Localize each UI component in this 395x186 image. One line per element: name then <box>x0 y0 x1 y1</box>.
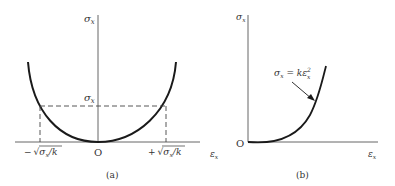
panel-b-x-axis-label: εx <box>368 149 377 160</box>
panel-a-neg-root-label: −√σx/k <box>24 147 57 158</box>
panel-a-y-axis-label: σx <box>84 13 95 26</box>
panel-b-origin-label: O <box>236 138 244 149</box>
panel-a-pos-root-label: +√σx/k <box>148 147 181 158</box>
figure: σx σx −√σx/k O +√σx/k εx (a) σx σx = kε2… <box>0 0 395 186</box>
panel-a-origin-label: O <box>94 147 102 158</box>
panel-a-parabola <box>28 62 176 142</box>
panel-b: σx σx = kε2x O εx (b) <box>236 12 378 180</box>
panel-b-caption: (b) <box>296 170 309 180</box>
panel-a-level-label: σx <box>84 92 95 105</box>
panel-a-caption: (a) <box>106 170 118 180</box>
panel-a-x-axis-label: εx <box>210 149 219 160</box>
panel-b-arrow-head <box>307 94 315 101</box>
panel-b-equation: σx = kε2x <box>274 66 311 80</box>
panel-a: σx σx −√σx/k O +√σx/k εx (a) <box>15 13 219 180</box>
panel-b-y-axis-label: σx <box>236 12 246 23</box>
